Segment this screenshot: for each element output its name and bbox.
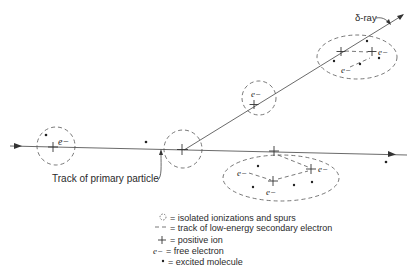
electron-label: e− [341, 65, 351, 75]
delta-ray-track [184, 14, 404, 150]
electron-label: e− [378, 47, 388, 57]
isolated-spur-middle [164, 130, 202, 168]
legend-item-excited-molecule: = excited molecule [168, 257, 243, 267]
arrowhead-icon [14, 143, 22, 149]
delta-ray-text: δ-ray [355, 12, 377, 23]
electron-label: e− [266, 187, 276, 197]
legend-symbol-electron: e− [153, 246, 163, 256]
legend: = isolated ionizations and spurs = track… [153, 213, 332, 267]
delta-ray-label: δ-ray [355, 12, 391, 25]
blob-upper: e− e− [317, 35, 397, 79]
arrowhead-icon [397, 14, 404, 20]
spur-on-delta-ray: e− [242, 81, 276, 115]
electron-label: e− [237, 168, 247, 178]
primary-track-label: Track of primary particle [52, 149, 163, 184]
electron-label: e− [251, 89, 261, 99]
legend-item-positive-ion: = positive ion [170, 235, 223, 245]
isolated-spur-left: e− [37, 127, 75, 165]
excited-molecule [145, 141, 148, 144]
legend-item-spurs: = isolated ionizations and spurs [170, 213, 296, 223]
radiation-track-diagram: e− e− e− e− e− [0, 0, 412, 276]
primary-track [10, 143, 407, 157]
primary-track-text: Track of primary particle [52, 173, 159, 184]
electron-label: e− [58, 136, 69, 147]
excited-molecule [385, 161, 388, 164]
electron-label: e− [318, 164, 328, 174]
blob-lower: e− e− e− [223, 146, 339, 201]
legend-item-secondary-track: = track of low-energy secondary electron [170, 223, 332, 233]
arrowhead-icon [388, 151, 396, 157]
legend-item-free-electron: = free electron [166, 246, 224, 256]
